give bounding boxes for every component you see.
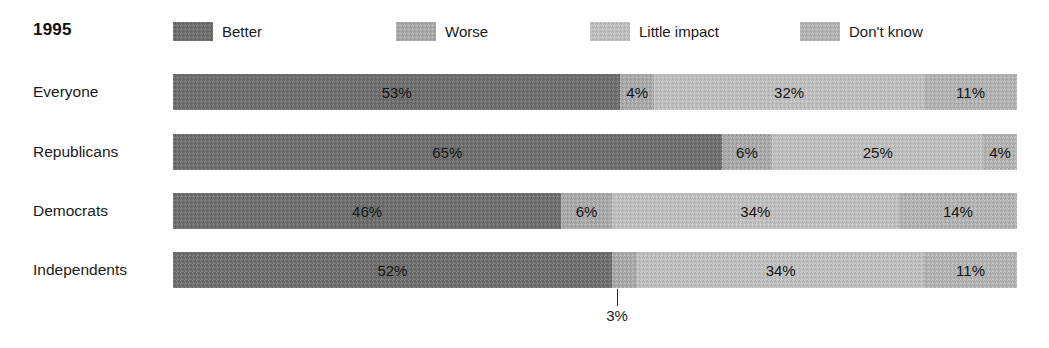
segment-value-label: 34%: [740, 203, 770, 220]
bar-segment-better[interactable]: 53%: [173, 74, 620, 110]
category-label: Democrats: [33, 193, 108, 229]
segment-value-label: 52%: [377, 262, 407, 279]
segment-value-label: 6%: [576, 203, 598, 220]
bar-segment-little-impact[interactable]: 32%: [654, 74, 924, 110]
category-label: Everyone: [33, 74, 98, 110]
callout-leader-line: [617, 289, 618, 306]
bar-row: Democrats46%6%34%14%: [0, 193, 1049, 229]
callout-label: 3%: [606, 307, 628, 324]
bar-segment-little-impact[interactable]: 34%: [612, 193, 899, 229]
segment-value-label: 4%: [989, 144, 1011, 161]
segment-value-label: 11%: [956, 84, 985, 101]
segment-value-label: 34%: [766, 262, 796, 279]
bar-track: 52%3%34%11%: [173, 252, 1017, 288]
bar-segment-don-t-know[interactable]: 11%: [924, 74, 1017, 110]
category-label: Independents: [33, 252, 127, 288]
segment-value-label: 4%: [626, 84, 648, 101]
bar-segment-little-impact[interactable]: 25%: [772, 134, 983, 170]
stacked-bar-chart: 1995 BetterWorseLittle impactDon't know …: [0, 0, 1049, 348]
bar-track: 53%4%32%11%: [173, 74, 1017, 110]
bar-segment-don-t-know[interactable]: 14%: [899, 193, 1017, 229]
bar-segment-better[interactable]: 65%: [173, 134, 722, 170]
plot-area: Everyone53%4%32%11%Republicans65%6%25%4%…: [0, 0, 1049, 348]
bar-row: Everyone53%4%32%11%: [0, 74, 1049, 110]
segment-value-label: 46%: [352, 203, 382, 220]
bar-track: 65%6%25%4%: [173, 134, 1017, 170]
bar-segment-worse[interactable]: 3%: [612, 252, 637, 288]
bar-segment-don-t-know[interactable]: 11%: [924, 252, 1017, 288]
bar-segment-worse[interactable]: 6%: [722, 134, 773, 170]
bar-segment-worse[interactable]: 6%: [561, 193, 612, 229]
bar-row: Independents52%3%34%11%: [0, 252, 1049, 288]
bar-track: 46%6%34%14%: [173, 193, 1017, 229]
category-label: Republicans: [33, 134, 118, 170]
bar-segment-worse[interactable]: 4%: [620, 74, 654, 110]
segment-value-label: 53%: [382, 84, 412, 101]
bar-segment-better[interactable]: 46%: [173, 193, 561, 229]
bar-segment-better[interactable]: 52%: [173, 252, 612, 288]
bar-segment-little-impact[interactable]: 34%: [637, 252, 924, 288]
segment-value-label: 11%: [956, 262, 985, 279]
segment-value-label: 14%: [943, 203, 973, 220]
segment-value-label: 65%: [432, 144, 462, 161]
bar-segment-don-t-know[interactable]: 4%: [983, 134, 1017, 170]
segment-value-label: 25%: [863, 144, 893, 161]
segment-value-label: 32%: [774, 84, 804, 101]
bar-row: Republicans65%6%25%4%: [0, 134, 1049, 170]
segment-value-label: 6%: [736, 144, 758, 161]
